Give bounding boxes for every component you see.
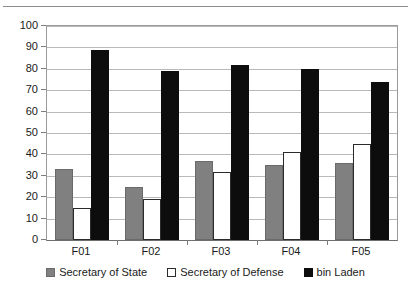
bar-f04-secretary-of-defense xyxy=(283,152,301,240)
bar-f05-secretary-of-defense xyxy=(353,144,371,240)
legend-swatch-secretary-of-state xyxy=(46,268,55,277)
bar-group-f02 xyxy=(125,26,179,240)
gridline-0 xyxy=(47,240,397,241)
y-axis-label-0: 0 xyxy=(32,234,38,245)
y-axis-label-80: 80 xyxy=(26,62,38,73)
bar-group-f01 xyxy=(55,26,109,240)
y-axis-label-70: 70 xyxy=(26,84,38,95)
chart-legend: Secretary of StateSecretary of Defensebi… xyxy=(0,266,411,279)
legend-item-bin-laden[interactable]: bin Laden xyxy=(304,266,365,279)
bar-f02-secretary-of-defense xyxy=(143,199,161,240)
bar-f01-bin-laden xyxy=(91,50,109,240)
y-axis-label-50: 50 xyxy=(26,127,38,138)
bar-f05-bin-laden xyxy=(371,82,389,240)
x-axis-label-f05: F05 xyxy=(352,245,371,258)
x-axis-label-f01: F01 xyxy=(72,245,91,258)
bars-layer xyxy=(47,26,397,240)
legend-item-secretary-of-defense[interactable]: Secretary of Defense xyxy=(167,266,283,279)
bar-group-f03 xyxy=(195,26,249,240)
x-axis-tick-labels: F01F02F03F04F05 xyxy=(46,245,396,261)
x-axis-label-f04: F04 xyxy=(282,245,301,258)
legend-label-bin-laden: bin Laden xyxy=(317,266,365,279)
bar-f05-secretary-of-state xyxy=(335,163,353,240)
legend-item-secretary-of-state[interactable]: Secretary of State xyxy=(46,266,147,279)
y-axis-label-40: 40 xyxy=(26,148,38,159)
bar-f02-bin-laden xyxy=(161,71,179,240)
y-axis-label-100: 100 xyxy=(20,20,38,31)
legend-swatch-bin-laden xyxy=(304,268,313,277)
legend-swatch-secretary-of-defense xyxy=(167,268,176,277)
bar-f01-secretary-of-state xyxy=(55,169,73,240)
bar-f03-bin-laden xyxy=(231,65,249,240)
y-axis-label-90: 90 xyxy=(26,41,38,52)
bar-f03-secretary-of-defense xyxy=(213,172,231,240)
y-axis-label-10: 10 xyxy=(26,212,38,223)
bar-f01-secretary-of-defense xyxy=(73,208,91,240)
bar-f02-secretary-of-state xyxy=(125,187,143,241)
legend-label-secretary-of-defense: Secretary of Defense xyxy=(180,266,283,279)
x-axis-label-f02: F02 xyxy=(142,245,161,258)
y-axis-label-30: 30 xyxy=(26,169,38,180)
bar-group-f04 xyxy=(265,26,319,240)
y-axis-label-20: 20 xyxy=(26,191,38,202)
bar-group-f05 xyxy=(335,26,389,240)
plot-area xyxy=(46,25,398,241)
x-axis-label-f03: F03 xyxy=(212,245,231,258)
bar-f04-secretary-of-state xyxy=(265,165,283,240)
grouped-bar-chart: 0102030405060708090100 F01F02F03F04F05 S… xyxy=(0,0,411,289)
y-axis-label-60: 60 xyxy=(26,105,38,116)
legend-label-secretary-of-state: Secretary of State xyxy=(59,266,147,279)
bar-f03-secretary-of-state xyxy=(195,161,213,240)
bar-f04-bin-laden xyxy=(301,69,319,240)
